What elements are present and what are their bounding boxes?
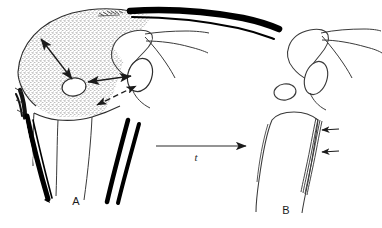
panel-b-label: B bbox=[282, 204, 289, 216]
figure-root: A t bbox=[0, 0, 382, 228]
anatomical-diagram: A t bbox=[0, 0, 382, 228]
panel-a-label: A bbox=[72, 195, 80, 207]
